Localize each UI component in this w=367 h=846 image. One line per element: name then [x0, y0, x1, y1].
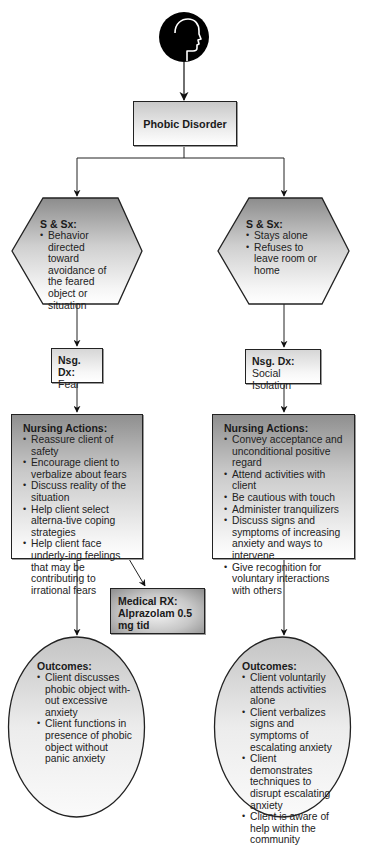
- list-item: Client is aware of help within the commu…: [242, 811, 338, 846]
- right-nursing-actions-box: Nursing Actions: Convey acceptance and u…: [212, 414, 355, 559]
- medical-rx-title: Medical RX:: [118, 595, 197, 607]
- medical-rx-value: Alprazolam 0.5 mg tid: [118, 607, 197, 631]
- right-symptoms-list: Stays alone Refuses to leave room or hom…: [246, 230, 336, 276]
- left-actions-title: Nursing Actions:: [23, 422, 134, 434]
- list-item: Client verbalizes signs and symptoms of …: [242, 707, 338, 753]
- list-item: Client discusses phobic object with-out …: [37, 672, 133, 718]
- right-dx-title: Nsg. Dx:: [252, 355, 314, 367]
- right-outcomes-content: Outcomes: Client voluntarily attends act…: [242, 660, 338, 846]
- list-item: Reassure client of safety: [23, 434, 134, 457]
- list-item: Give recognition for voluntary interacti…: [224, 562, 346, 597]
- right-actions-title: Nursing Actions:: [224, 422, 346, 434]
- list-item: Refuses to leave room or home: [246, 242, 324, 277]
- left-outcomes-content: Outcomes: Client discusses phobic object…: [37, 660, 133, 765]
- right-symptoms-content: S & Sx: Stays alone Refuses to leave roo…: [246, 218, 336, 276]
- right-outcomes-title: Outcomes:: [242, 660, 338, 672]
- list-item: Discuss signs and symptoms of increasing…: [224, 515, 346, 561]
- list-item: Client demonstrates techniques to disrup…: [242, 753, 338, 811]
- list-item: Be cautious with touch: [224, 492, 346, 504]
- right-dx-value: Social Isolation: [252, 367, 314, 391]
- list-item: Help client select alterna-tive coping s…: [23, 504, 134, 539]
- list-item: Client functions in presence of phobic o…: [37, 718, 133, 764]
- left-symptoms-title: S & Sx:: [40, 218, 130, 230]
- left-nursing-actions-box: Nursing Actions: Reassure client of safe…: [11, 414, 143, 559]
- list-item: Behavior directed toward avoidance of th…: [40, 230, 116, 311]
- right-symptoms-title: S & Sx:: [246, 218, 336, 230]
- list-item: Encourage client to verbalize about fear…: [23, 457, 134, 480]
- right-actions-list: Convey acceptance and unconditional posi…: [224, 434, 346, 596]
- list-item: Convey acceptance and unconditional posi…: [224, 434, 346, 469]
- left-outcomes-list: Client discusses phobic object with-out …: [37, 672, 133, 765]
- left-outcomes-title: Outcomes:: [37, 660, 133, 672]
- right-outcomes-list: Client voluntarily attends activities al…: [242, 672, 338, 846]
- left-dx-title: Nsg. Dx:: [58, 354, 96, 378]
- left-dx-value: Fear: [58, 378, 96, 390]
- left-symptoms-list: Behavior directed toward avoidance of th…: [40, 230, 130, 311]
- list-item: Discuss reality of the situation: [23, 480, 134, 503]
- connector-root-split: [77, 146, 284, 196]
- right-nursing-diagnosis-box: Nsg. Dx: Social Isolation: [245, 349, 321, 384]
- list-item: Administer tranquilizers: [224, 504, 346, 516]
- root-label: Phobic Disorder: [143, 118, 226, 130]
- medical-rx-box: Medical RX: Alprazolam 0.5 mg tid: [110, 588, 205, 634]
- list-item: Stays alone: [246, 230, 336, 242]
- left-actions-list: Reassure client of safety Encourage clie…: [23, 434, 134, 596]
- left-symptoms-content: S & Sx: Behavior directed toward avoidan…: [40, 218, 130, 311]
- human-head-profile-icon: [158, 11, 210, 63]
- root-phobic-disorder-box: Phobic Disorder: [133, 101, 237, 146]
- list-item: Client voluntarily attends activities al…: [242, 672, 338, 707]
- list-item: Attend activities with client: [224, 469, 346, 492]
- left-nursing-diagnosis-box: Nsg. Dx: Fear: [51, 348, 103, 383]
